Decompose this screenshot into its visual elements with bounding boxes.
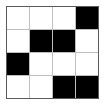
grid-body — [7, 7, 98, 98]
grid-cell-r3-c4[interactable] — [76, 53, 98, 75]
grid-cell-r2-c1[interactable] — [7, 30, 29, 52]
grid-cell-r1-c4[interactable] — [76, 7, 98, 29]
grid-cell-r2-c3[interactable] — [53, 30, 75, 52]
grid-cell-r1-c3[interactable] — [53, 7, 75, 29]
grid-cell-r1-c1[interactable] — [7, 7, 29, 29]
grid-cell-r3-c3[interactable] — [53, 53, 75, 75]
grid-cell-r3-c2[interactable] — [30, 53, 52, 75]
grid-cell-r4-c3[interactable] — [53, 76, 75, 98]
grid-cell-r1-c2[interactable] — [30, 7, 52, 29]
grid-cell-r3-c1[interactable] — [7, 53, 29, 75]
grid-cell-r4-c4[interactable] — [76, 76, 98, 98]
binary-grid-widget — [6, 6, 99, 99]
grid-cell-r2-c2[interactable] — [30, 30, 52, 52]
grid-cell-r4-c1[interactable] — [7, 76, 29, 98]
grid-cell-r2-c4[interactable] — [76, 30, 98, 52]
grid-cell-r4-c2[interactable] — [30, 76, 52, 98]
